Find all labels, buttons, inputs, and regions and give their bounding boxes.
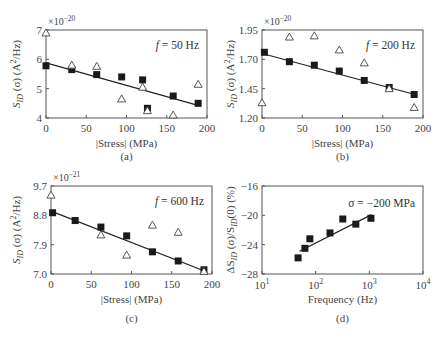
data-point-triangle [258,99,266,106]
data-point-square [170,93,177,100]
annotation-sigma: σ = −200 MPa [348,197,415,209]
annotation-frequency: f = 50 Hz [156,39,199,52]
y-tick-label: −16 [241,180,259,192]
chart-panel-b: 1.951.701.451.20050100150200×10−20|Stres… [223,14,432,163]
data-point-square [286,58,293,65]
fit-line [300,215,372,252]
data-point-triangle [47,191,55,198]
data-point-square [261,49,268,56]
x-tick-label: 50 [86,278,98,290]
x-tick-label: 104 [416,277,431,291]
x-tick-label: 100 [334,122,351,134]
data-point-square [93,71,100,78]
y-tick-label: 4 [37,112,43,124]
y-tick-label: 7.0 [33,268,47,280]
data-point-square [97,224,104,231]
y-multiplier: ×10−20 [264,14,292,27]
chart-panel-d: −16−20−24−28101102103104Frequency (Hz)(d… [224,180,431,325]
x-tick-label: 150 [159,122,176,134]
data-point-triangle [174,228,182,235]
data-point-square [195,100,202,107]
data-point-square [118,73,125,80]
y-tick-label: −20 [241,209,259,221]
data-point-square [301,245,308,252]
y-tick-label: 7 [37,24,43,36]
x-tick-label: 0 [43,122,49,134]
y-tick-label: 6 [37,53,43,65]
y-axis-label: SID (σ) (A2/Hz) [9,196,25,264]
y-multiplier: ×10−21 [53,170,81,183]
x-tick-label: 102 [308,277,323,291]
data-point-triangle [118,95,126,102]
data-point-square [327,229,334,236]
data-point-triangle [93,62,101,69]
y-tick-label: 1.95 [239,24,259,36]
data-point-triangle [194,80,202,87]
chart-panel-c: 9.78.87.97.0050100150200×10−21|Stress| (… [9,170,221,325]
data-point-triangle [123,251,131,258]
data-point-square [43,62,50,69]
data-point-square [123,232,130,239]
data-point-square [411,91,418,98]
x-tick-label: 100 [123,278,140,290]
panel-caption: (c) [125,312,138,325]
data-point-square [336,68,343,75]
x-axis-label: |Stress| (MPa) [101,293,163,306]
x-tick-label: 0 [259,122,265,134]
data-point-square [311,62,318,69]
x-axis-label: |Stress| (MPa) [312,137,374,150]
annotation-frequency: f = 600 Hz [155,195,204,208]
panel-caption: (b) [336,150,349,163]
y-axis-label: SID (σ) (A2/Hz) [9,40,25,108]
data-point-square [361,77,368,84]
y-tick-label: 1.70 [239,53,259,65]
x-tick-label: 200 [204,278,221,290]
data-point-triangle [169,111,177,118]
data-point-triangle [148,221,156,228]
data-point-square [306,235,313,242]
y-tick-label: 9.7 [33,180,47,192]
data-point-triangle [410,103,418,110]
x-tick-label: 103 [362,277,377,291]
chart-panel-a: 7654050100150200×10−20|Stress| (MPa)(a)S… [9,14,216,163]
x-tick-label: 200 [415,122,432,134]
y-tick-label: 1.20 [239,112,259,124]
y-tick-label: 1.45 [239,83,259,95]
x-tick-label: 150 [375,122,392,134]
y-axis-label: SID (σ) (A2/Hz) [223,40,239,108]
data-point-triangle [360,59,368,66]
data-point-square [339,216,346,223]
annotation-frequency: f = 200 Hz [366,39,415,52]
y-tick-label: 7.9 [33,239,47,251]
y-multiplier: ×10−20 [48,14,76,27]
data-point-square [72,217,79,224]
x-axis-label: |Stress| (MPa) [96,137,158,150]
data-point-square [49,209,56,216]
data-point-square [149,248,156,255]
data-point-triangle [310,32,318,39]
x-tick-label: 100 [118,122,135,134]
data-point-triangle [139,83,147,90]
figure: 7654050100150200×10−20|Stress| (MPa)(a)S… [0,0,443,339]
x-tick-label: 101 [255,277,270,291]
panel-caption: (a) [120,150,133,163]
x-tick-label: 0 [48,278,54,290]
x-tick-label: 150 [164,278,181,290]
y-axis-label: ΔSID (σ)/SID(0) (%) [224,186,239,274]
y-tick-label: 8.8 [33,209,47,221]
data-point-square [367,215,374,222]
x-axis-label: Frequency (Hz) [308,293,378,306]
data-point-triangle [285,33,293,40]
data-point-square [295,254,302,261]
data-point-triangle [335,46,343,53]
data-point-triangle [68,61,76,68]
panel-caption: (d) [336,312,349,325]
y-tick-label: 5 [37,83,43,95]
y-tick-label: −24 [241,239,259,251]
data-point-square [352,221,359,228]
x-tick-label: 50 [297,122,309,134]
x-tick-label: 200 [199,122,216,134]
data-point-square [175,257,182,264]
x-tick-label: 50 [81,122,93,134]
